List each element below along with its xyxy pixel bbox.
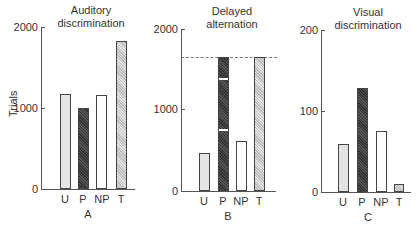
y-tick	[321, 111, 325, 112]
bar-u	[338, 144, 349, 192]
y-tick-label: 0	[278, 186, 318, 198]
panel-label: C	[358, 211, 378, 223]
panel-c-title-line1: Visual	[308, 6, 417, 19]
y-tick-label: 100	[278, 105, 318, 117]
panel-c-visual-discrimination: Visual discrimination 200 100 0 U P NP T…	[0, 0, 417, 227]
category-label: P	[352, 196, 372, 208]
y-tick-label: 200	[278, 24, 318, 36]
y-tick	[321, 30, 325, 31]
panel-c-title: Visual discrimination	[308, 6, 417, 32]
x-axis	[321, 192, 411, 193]
category-label: T	[389, 196, 409, 208]
category-label: NP	[371, 196, 391, 208]
bar-np	[376, 131, 387, 192]
category-label: U	[333, 196, 353, 208]
bar-p	[357, 88, 368, 192]
bar-t	[394, 184, 404, 192]
